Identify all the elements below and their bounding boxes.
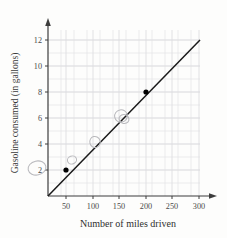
x-tick-label-300: 300 xyxy=(193,202,205,211)
data-point-50-2 xyxy=(63,167,68,172)
y-axis-title: Gasoline consumed (in gallons) xyxy=(10,53,21,174)
x-tick-label-100: 100 xyxy=(87,202,99,211)
x-tick-label-250: 250 xyxy=(166,202,178,211)
data-point-200-8 xyxy=(143,89,148,94)
y-tick-label-6: 6 xyxy=(38,114,42,123)
chart-svg: 2 4 6 8 10 12 50 100 150 200 250 300 Gas… xyxy=(0,0,227,238)
y-tick-label-12: 12 xyxy=(34,36,42,45)
x-tick-label-50: 50 xyxy=(62,202,70,211)
gasoline-consumption-chart: 2 4 6 8 10 12 50 100 150 200 250 300 Gas… xyxy=(0,0,227,238)
y-tick-label-8: 8 xyxy=(38,88,42,97)
y-axis-arrowhead xyxy=(45,18,51,26)
x-axis-title: Number of miles driven xyxy=(80,218,176,229)
y-tick-label-10: 10 xyxy=(34,62,42,71)
x-axis-arrowhead xyxy=(209,193,217,199)
y-tick-label-4: 4 xyxy=(38,140,42,149)
plot-background xyxy=(48,30,200,196)
x-tick-label-150: 150 xyxy=(113,202,125,211)
x-tick-label-200: 200 xyxy=(140,202,152,211)
